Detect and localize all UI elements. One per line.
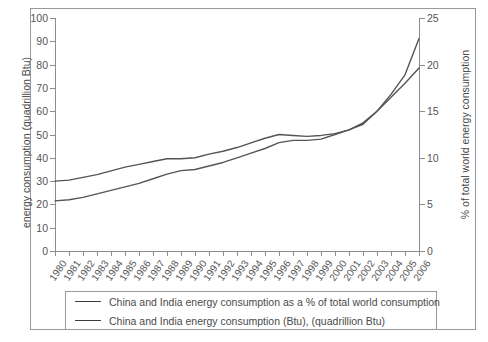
legend-line-swatch-percent xyxy=(75,301,101,302)
y-axis-right-tick xyxy=(420,18,425,19)
x-axis-tick xyxy=(363,251,364,256)
x-axis-tick xyxy=(181,251,182,256)
y-axis-left-tick-label: 70 xyxy=(18,83,48,93)
x-axis-tick xyxy=(349,251,350,256)
y-axis-right-tick xyxy=(420,251,425,252)
y-axis-right-tick xyxy=(420,111,425,112)
x-axis-tick xyxy=(223,251,224,256)
series-line-btu xyxy=(55,68,419,201)
plot-area xyxy=(55,18,420,251)
x-axis-tick xyxy=(321,251,322,256)
x-axis-tick xyxy=(265,251,266,256)
y-axis-right-title: % of total world energy consumption xyxy=(459,18,471,251)
x-axis-tick xyxy=(237,251,238,256)
y-axis-right-tick xyxy=(420,204,425,205)
plot-region: energy consumption (quadrillion Btu) % o… xyxy=(55,18,420,251)
x-axis-tick xyxy=(419,251,420,256)
x-axis-tick xyxy=(125,251,126,256)
legend-label-percent: China and India energy consumption as a … xyxy=(109,296,440,308)
y-axis-left-tick-label: 10 xyxy=(18,223,48,233)
y-axis-right-tick xyxy=(420,65,425,66)
legend-item-btu: China and India energy consumption (Btu)… xyxy=(66,311,436,330)
x-axis-tick xyxy=(83,251,84,256)
x-axis-tick xyxy=(251,251,252,256)
x-axis-tick xyxy=(377,251,378,256)
y-axis-right-tick-label: 25 xyxy=(427,13,457,23)
y-axis-left-tick-label: 90 xyxy=(18,36,48,46)
y-axis-right-tick-label: 20 xyxy=(427,60,457,70)
x-axis-tick xyxy=(335,251,336,256)
y-axis-left-tick-label: 50 xyxy=(18,130,48,140)
x-axis-tick xyxy=(111,251,112,256)
series-line-percent xyxy=(55,39,419,182)
x-axis-tick xyxy=(307,251,308,256)
chart-figure: energy consumption (quadrillion Btu) % o… xyxy=(0,0,488,342)
y-axis-left-tick-label: 80 xyxy=(18,60,48,70)
chart-legend: China and India energy consumption as a … xyxy=(65,291,437,330)
series-lines xyxy=(55,18,420,251)
y-axis-left-tick-label: 60 xyxy=(18,106,48,116)
y-axis-right-tick-label: 5 xyxy=(427,199,457,209)
y-axis-left-tick-label: 40 xyxy=(18,153,48,163)
x-axis-tick xyxy=(139,251,140,256)
x-axis-tick xyxy=(153,251,154,256)
x-axis-tick xyxy=(167,251,168,256)
x-axis-tick xyxy=(279,251,280,256)
y-axis-right-tick-label: 15 xyxy=(427,106,457,116)
y-axis-left-tick-label: 100 xyxy=(18,13,48,23)
legend-item-percent: China and India energy consumption as a … xyxy=(66,292,436,311)
x-axis-tick xyxy=(195,251,196,256)
x-axis-tick xyxy=(69,251,70,256)
y-axis-right-tick xyxy=(420,158,425,159)
y-axis-left-tick-label: 0 xyxy=(18,246,48,256)
x-axis-tick xyxy=(391,251,392,256)
x-axis-tick xyxy=(405,251,406,256)
y-axis-right-tick-label: 0 xyxy=(427,246,457,256)
legend-line-swatch-btu xyxy=(75,320,101,321)
y-axis-left-tick-label: 30 xyxy=(18,176,48,186)
x-axis-tick xyxy=(97,251,98,256)
x-axis-tick xyxy=(293,251,294,256)
y-axis-left-tick-label: 20 xyxy=(18,199,48,209)
x-axis-tick xyxy=(55,251,56,256)
y-axis-right-tick-label: 10 xyxy=(427,153,457,163)
legend-label-btu: China and India energy consumption (Btu)… xyxy=(109,315,385,327)
x-axis-tick xyxy=(209,251,210,256)
